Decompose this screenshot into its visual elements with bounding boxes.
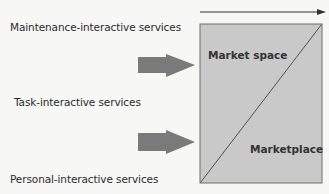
personal-interactive-label: Personal-interactive services — [10, 173, 158, 185]
maintenance-interactive-label: Maintenance-interactive services — [10, 21, 181, 33]
top-arrow-icon — [200, 9, 326, 15]
task-interactive-label: Task-interactive services — [14, 96, 141, 108]
marketplace-label: Marketplace — [250, 143, 323, 155]
market-space-label: Market space — [208, 49, 287, 61]
block-arrow-right-icon — [138, 54, 195, 77]
block-arrow-right-icon — [138, 130, 195, 154]
